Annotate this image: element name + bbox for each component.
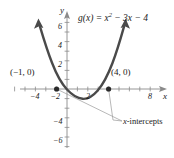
parabola-plot <box>0 0 174 158</box>
x-intercepts-annotation: x-intercepts <box>123 117 163 126</box>
x-tick-label-neg4: −4 <box>30 93 39 101</box>
x-axis <box>20 86 167 92</box>
y-axis-label: y <box>60 6 64 15</box>
x-intercepts-annotation-text: -intercepts <box>127 116 163 126</box>
point-label-right: (4, 0) <box>111 68 131 77</box>
point-marker-right <box>106 86 111 91</box>
graph-figure: −4 −2 2 8 6 4 2 −4 −6 y x g(x) = x2 − 3x… <box>0 0 174 158</box>
y-tick-label-neg6: −6 <box>53 137 62 145</box>
x-tick-label-2: 2 <box>86 93 90 101</box>
function-equation-head: g(x) = x <box>78 13 109 23</box>
x-tick-label-neg2: −2 <box>51 93 60 101</box>
function-equation-label: g(x) = x2 − 3x − 4 <box>78 14 148 24</box>
x-axis-label: x <box>163 92 167 101</box>
y-tick-label-2: 2 <box>58 61 62 69</box>
point-marker-left <box>54 86 59 91</box>
point-label-left: (−1, 0) <box>10 68 35 77</box>
y-tick-label-neg4: −4 <box>53 118 62 126</box>
parabola-curve <box>34 19 130 99</box>
y-tick-label-4: 4 <box>58 42 62 50</box>
x-tick-label-8: 8 <box>148 93 152 101</box>
y-tick-label-6: 6 <box>58 23 62 31</box>
function-equation-tail: − 3x − 4 <box>112 13 148 23</box>
